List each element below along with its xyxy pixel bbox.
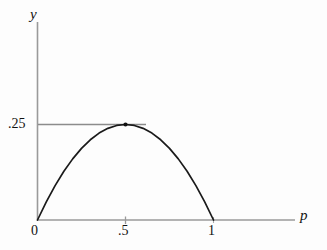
plot-canvas [0,0,327,250]
chart-figure: y p 0 .5 1 .25 [0,0,327,250]
y-tick-label-quarter: .25 [8,117,26,131]
y-axis-label: y [30,7,37,22]
parabola-curve [38,125,214,221]
x-tick-label-one: 1 [208,224,215,238]
maximum-point-marker [123,122,127,126]
x-axis-label: p [300,208,308,223]
x-tick-label-half: .5 [118,224,129,238]
x-tick-label-0: 0 [31,224,38,238]
